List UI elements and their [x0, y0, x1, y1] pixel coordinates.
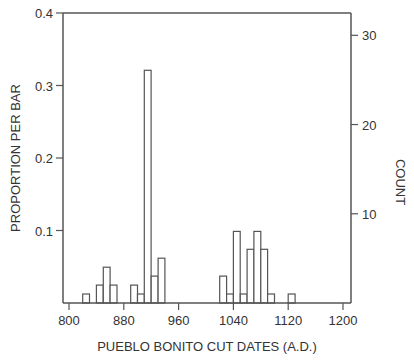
histogram-chart: 800880960104011201200 0.10.20.30.4 10203…	[0, 0, 414, 360]
left-y-tick-label: 0.1	[35, 224, 53, 239]
right-y-tick-label: 30	[362, 28, 376, 43]
histogram-bar	[227, 294, 234, 303]
x-tick-label: 1040	[219, 313, 248, 328]
x-tick-label: 1200	[329, 313, 358, 328]
histogram-bar	[83, 294, 90, 303]
histogram-bar	[268, 294, 275, 303]
histogram-bar	[220, 276, 227, 303]
left-y-axis-ticks: 0.10.20.30.4	[35, 6, 63, 239]
histogram-bar	[103, 267, 110, 303]
x-tick-label: 1120	[274, 313, 302, 328]
left-y-axis-label: PROPORTION PER BAR	[8, 84, 23, 232]
left-y-tick-label: 0.4	[35, 6, 53, 21]
x-tick-label: 800	[58, 313, 80, 328]
x-tick-label: 880	[113, 313, 135, 328]
histogram-bar	[96, 285, 103, 303]
histogram-bar	[247, 249, 254, 303]
histogram-bar	[233, 231, 240, 303]
left-y-tick-label: 0.2	[35, 151, 53, 166]
left-y-tick-label: 0.3	[35, 79, 53, 94]
right-y-axis-ticks: 102030	[351, 28, 376, 221]
histogram-bar	[110, 285, 117, 303]
right-y-tick-label: 20	[362, 118, 376, 133]
right-y-tick-label: 10	[362, 207, 376, 222]
plot-frame	[63, 13, 351, 303]
histogram-bar	[254, 231, 261, 303]
histogram-bar	[131, 285, 138, 303]
x-axis-label: PUEBLO BONITO CUT DATES (A.D.)	[97, 339, 317, 354]
histogram-bars	[83, 70, 295, 303]
histogram-bar	[138, 294, 145, 303]
x-tick-label: 960	[168, 313, 190, 328]
histogram-bar	[158, 258, 165, 303]
histogram-bar	[288, 294, 295, 303]
histogram-bar	[151, 276, 158, 303]
histogram-bar	[261, 249, 268, 303]
histogram-bar	[144, 70, 151, 303]
right-y-axis-label: COUNT	[393, 159, 408, 205]
x-axis-ticks: 800880960104011201200	[58, 303, 357, 328]
histogram-bar	[240, 294, 247, 303]
